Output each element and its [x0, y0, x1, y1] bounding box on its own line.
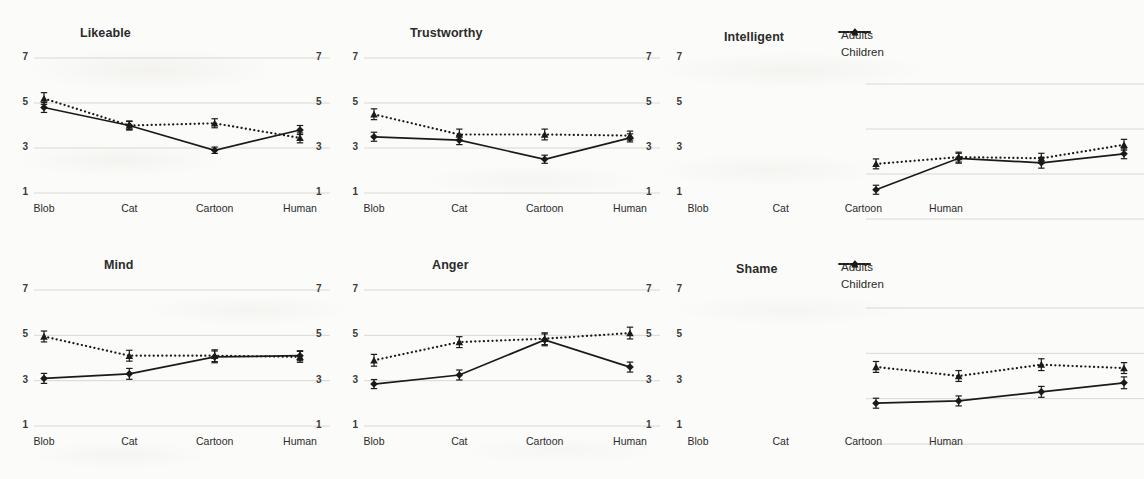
plot-area — [660, 0, 960, 150]
x-axis-tick-label: Cartoon — [515, 435, 575, 447]
x-axis-tick-label: Cat — [99, 202, 159, 214]
x-axis-tick-label: Cartoon — [185, 202, 245, 214]
plot-area — [660, 240, 960, 390]
chart-panel-intelligent: Intelligent Adults Children 1357BlobCatC… — [660, 0, 966, 240]
y-axis-tick-label: 3 — [316, 374, 330, 385]
y-axis-tick-label: 7 — [668, 51, 682, 62]
x-axis-tick-label: Human — [270, 202, 330, 214]
y-axis-tick-label: 5 — [668, 328, 682, 339]
y-axis-tick-label: 5 — [344, 96, 358, 107]
x-axis-tick-label: Cat — [429, 435, 489, 447]
y-axis-tick-label: 3 — [14, 374, 28, 385]
x-axis-tick-label: Human — [916, 202, 976, 214]
x-axis-tick-label: Blob — [344, 435, 404, 447]
chart-panel-shame: Shame Adults Children 1357BlobCatCartoon… — [660, 240, 966, 479]
x-axis-tick-label: Blob — [14, 435, 74, 447]
y-axis-tick-label: 5 — [646, 96, 660, 107]
x-axis-tick-label: Human — [916, 435, 976, 447]
x-axis-tick-label: Cartoon — [833, 435, 893, 447]
y-axis-tick-label: 3 — [646, 374, 660, 385]
y-axis-tick-label: 1 — [344, 186, 358, 197]
chart-panel-anger: Anger 11335577BlobCatCartoonHuman — [330, 240, 660, 479]
x-axis-tick-label: Cartoon — [833, 202, 893, 214]
y-axis-tick-label: 1 — [668, 419, 682, 430]
y-axis-tick-label: 7 — [646, 283, 660, 294]
y-axis-tick-label: 3 — [646, 141, 660, 152]
x-axis-tick-label: Cat — [429, 202, 489, 214]
y-axis-tick-label: 3 — [344, 141, 358, 152]
y-axis-tick-label: 1 — [316, 186, 330, 197]
x-axis-tick-label: Cartoon — [515, 202, 575, 214]
y-axis-tick-label: 3 — [668, 374, 682, 385]
y-axis-tick-label: 5 — [316, 96, 330, 107]
x-axis-tick-label: Blob — [344, 202, 404, 214]
y-axis-tick-label: 5 — [316, 328, 330, 339]
y-axis-tick-label: 5 — [344, 328, 358, 339]
y-axis-tick-label: 1 — [668, 186, 682, 197]
x-axis-tick-label: Human — [600, 202, 660, 214]
x-axis-tick-label: Blob — [668, 435, 728, 447]
y-axis-tick-label: 5 — [14, 96, 28, 107]
y-axis-tick-label: 3 — [344, 374, 358, 385]
y-axis-tick-label: 1 — [14, 419, 28, 430]
y-axis-tick-label: 5 — [14, 328, 28, 339]
x-axis-tick-label: Blob — [14, 202, 74, 214]
y-axis-tick-label: 3 — [14, 141, 28, 152]
y-axis-tick-label: 1 — [646, 186, 660, 197]
y-axis-tick-label: 7 — [316, 283, 330, 294]
x-axis-tick-label: Human — [270, 435, 330, 447]
y-axis-tick-label: 7 — [344, 283, 358, 294]
x-axis-tick-label: Cat — [751, 202, 811, 214]
y-axis-tick-label: 7 — [646, 51, 660, 62]
chart-panel-likeable: Likeable 11335577BlobCatCartoonHuman — [0, 0, 330, 240]
x-axis-tick-label: Cat — [99, 435, 159, 447]
y-axis-tick-label: 1 — [14, 186, 28, 197]
y-axis-tick-label: 5 — [668, 96, 682, 107]
y-axis-tick-label: 1 — [344, 419, 358, 430]
x-axis-tick-label: Blob — [668, 202, 728, 214]
y-axis-tick-label: 1 — [316, 419, 330, 430]
x-axis-tick-label: Cartoon — [185, 435, 245, 447]
y-axis-tick-label: 7 — [344, 51, 358, 62]
x-axis-tick-label: Cat — [751, 435, 811, 447]
y-axis-tick-label: 7 — [14, 51, 28, 62]
y-axis-tick-label: 7 — [14, 283, 28, 294]
y-axis-tick-label: 7 — [668, 283, 682, 294]
chart-panel-trustworthy: Trustworthy 11335577BlobCatCartoonHuman — [330, 0, 660, 240]
y-axis-tick-label: 3 — [668, 141, 682, 152]
x-axis-tick-label: Human — [600, 435, 660, 447]
chart-panel-mind: Mind 11335577BlobCatCartoonHuman — [0, 240, 330, 479]
y-axis-tick-label: 7 — [316, 51, 330, 62]
y-axis-tick-label: 1 — [646, 419, 660, 430]
y-axis-tick-label: 3 — [316, 141, 330, 152]
y-axis-tick-label: 5 — [646, 328, 660, 339]
